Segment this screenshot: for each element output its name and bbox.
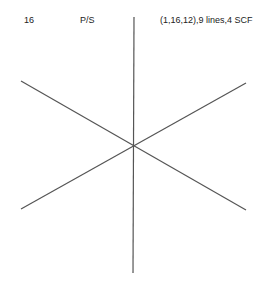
line-diagram (0, 0, 256, 295)
